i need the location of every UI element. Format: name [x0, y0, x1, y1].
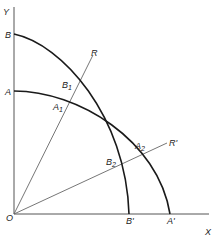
label-r: R: [91, 48, 98, 58]
origin-label: O: [6, 213, 13, 223]
y-axis-label: Y: [3, 7, 10, 17]
diagram-canvas: Y X O B A B' A' R R' B1 A1 A2 B2: [0, 0, 216, 239]
label-b2: B2: [106, 157, 116, 168]
ray-or-prime: [14, 143, 167, 214]
label-b: B: [5, 30, 11, 40]
label-a-prime: A': [166, 216, 175, 226]
ray-or: [14, 55, 93, 214]
label-r-prime: R': [169, 138, 177, 148]
label-a: A: [4, 87, 11, 97]
label-b1: B1: [62, 80, 72, 91]
x-axis-label: X: [204, 227, 212, 237]
label-a2: A2: [134, 141, 145, 152]
label-a1: A1: [52, 102, 63, 113]
label-b-prime: B': [126, 216, 134, 226]
